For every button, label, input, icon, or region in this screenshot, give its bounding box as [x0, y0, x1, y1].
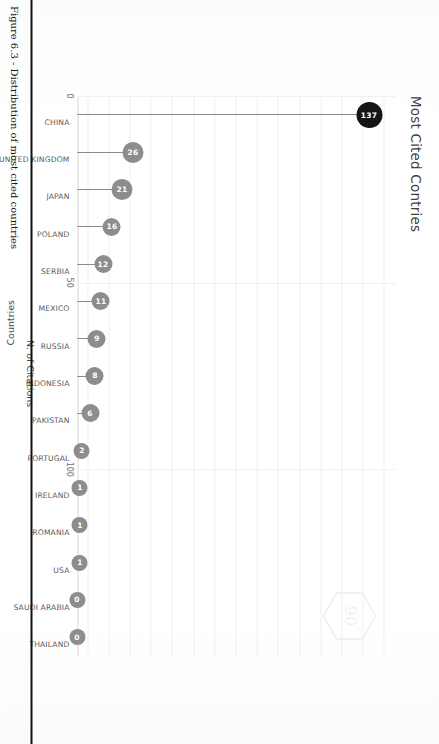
x-tick-label: 50: [64, 278, 73, 288]
lollipop-dot[interactable]: 137: [356, 102, 382, 128]
category-label: PAKISTAN: [32, 416, 69, 425]
category-label: RUSSIA: [40, 342, 69, 351]
lollipop-dot[interactable]: 8: [85, 367, 103, 385]
lollipop-dot[interactable]: 11: [91, 292, 109, 310]
gridline-horizontal: [341, 96, 342, 656]
data-value-label: 0: [74, 595, 79, 604]
lollipop-dot[interactable]: 16: [102, 218, 120, 236]
lollipop-dot[interactable]: 1: [71, 555, 87, 571]
lollipop-dot[interactable]: 9: [87, 330, 105, 348]
category-label: SAUDI ARABIA: [13, 603, 69, 612]
figure-caption: Figure 6.3 - Distribution of most cited …: [8, 6, 19, 249]
category-label: MEXICO: [38, 304, 69, 313]
x-tick-label: 100: [64, 462, 73, 477]
data-value-label: 6: [87, 409, 92, 418]
y-axis-title: Countries: [4, 300, 15, 346]
gridline-horizontal: [277, 96, 278, 656]
lollipop-dot[interactable]: 0: [69, 592, 85, 608]
data-value-label: 137: [361, 110, 377, 119]
data-value-label: 0: [74, 633, 79, 642]
lollipop-dot[interactable]: 26: [122, 142, 143, 163]
data-value-label: 16: [106, 222, 117, 231]
data-value-label: 11: [95, 297, 106, 306]
gridline-vertical: [77, 469, 395, 470]
lollipop-dot[interactable]: 1: [71, 517, 87, 533]
gridline-horizontal: [150, 96, 151, 656]
data-value-label: 21: [116, 185, 127, 194]
category-label: JAPAN: [46, 192, 69, 201]
chart-figure: Most Cited Contries 90 13726211612119862…: [0, 0, 439, 744]
gridline-horizontal: [383, 96, 384, 656]
gridline-horizontal: [235, 96, 236, 656]
data-value-label: 1: [76, 521, 81, 530]
gridline-horizontal: [214, 96, 215, 656]
data-value-label: 2: [79, 446, 84, 455]
category-label: USA: [53, 566, 69, 575]
caption-divider: [30, 0, 32, 744]
category-label: THAILAND: [29, 640, 69, 649]
chart-title: Most Cited Contries: [407, 96, 423, 232]
category-label: ROMANIA: [32, 528, 69, 537]
data-value-label: 9: [93, 334, 98, 343]
lollipop-dot[interactable]: 2: [73, 443, 89, 459]
data-value-label: 12: [97, 260, 108, 269]
gridline-horizontal: [108, 96, 109, 656]
x-axis-title: N. of Citations: [24, 340, 35, 407]
gridline-horizontal: [299, 96, 300, 656]
gridline-vertical: [77, 283, 395, 284]
x-tick-label: 0: [64, 93, 73, 98]
plot-area: 1372621161211986211100: [77, 96, 395, 656]
lollipop-dot[interactable]: 0: [69, 629, 85, 645]
data-value-label: 1: [76, 558, 81, 567]
category-label: CHINA: [44, 118, 69, 127]
gridline-horizontal: [362, 96, 363, 656]
gridline-horizontal: [193, 96, 194, 656]
gridline-horizontal: [171, 96, 172, 656]
scanned-page: Most Cited Contries 90 13726211612119862…: [0, 0, 439, 744]
category-label: POLAND: [36, 230, 69, 239]
lollipop-dot[interactable]: 12: [94, 255, 112, 273]
category-label: SERBIA: [41, 267, 69, 276]
gridline-horizontal: [129, 96, 130, 656]
data-value-label: 1: [76, 483, 81, 492]
lollipop-stem: [77, 114, 369, 115]
gridline-vertical: [77, 96, 395, 97]
data-value-label: 26: [127, 148, 138, 157]
gridline-horizontal: [320, 96, 321, 656]
gridline-horizontal: [256, 96, 257, 656]
category-label: IRELAND: [35, 491, 70, 500]
lollipop-dot[interactable]: 21: [111, 179, 132, 200]
category-label: PORTUGAL: [27, 454, 69, 463]
lollipop-dot[interactable]: 1: [71, 480, 87, 496]
data-value-label: 8: [91, 371, 96, 380]
lollipop-dot[interactable]: 6: [81, 404, 99, 422]
